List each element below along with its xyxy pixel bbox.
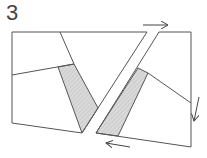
arrow-down-icon [194,97,199,121]
left-shaded-layer [58,64,98,133]
left-inner-line [60,32,74,64]
right-inner-line [148,73,191,103]
fault-diagram [0,0,207,158]
right-shaded-layer [96,68,148,136]
arrow-left-icon [106,143,130,147]
